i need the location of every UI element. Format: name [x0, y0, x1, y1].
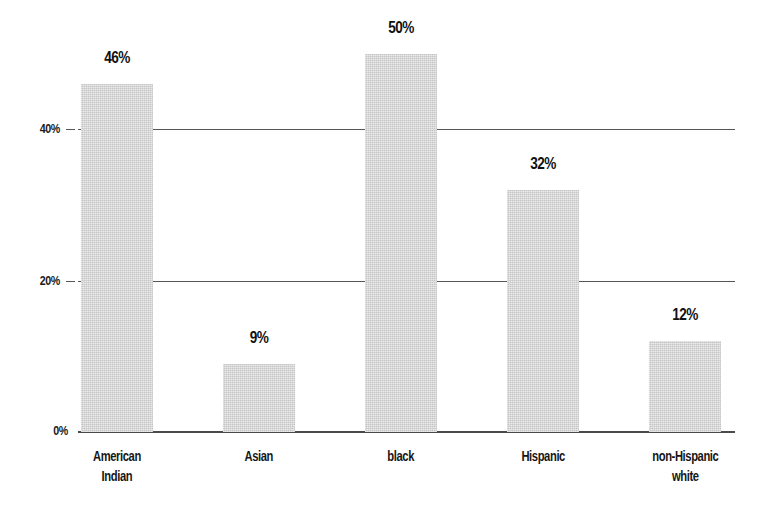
category-label-non-hispanic-white: non-Hispanic white	[615, 446, 755, 486]
bar-value-american-indian: 46%	[85, 48, 149, 68]
plot-area: 40% 20% 0% 46% American Indian 9% Asian …	[0, 0, 769, 516]
bar-chart: 40% 20% 0% 46% American Indian 9% Asian …	[0, 0, 769, 516]
bar-hispanic[interactable]	[507, 190, 579, 432]
tick-mark-20	[66, 281, 75, 282]
category-label-hispanic: Hispanic	[473, 446, 613, 466]
y-tick-label-20: 20%	[17, 273, 60, 288]
bar-american-indian[interactable]	[81, 84, 153, 432]
category-label-text-non-hispanic-white: non-Hispanic white	[652, 446, 718, 486]
category-label-text-black: black	[388, 446, 415, 466]
bar-asian[interactable]	[223, 364, 295, 432]
category-label-text-hispanic: Hispanic	[521, 446, 564, 466]
bar-value-hispanic: 32%	[511, 154, 575, 174]
bar-black[interactable]	[365, 54, 437, 432]
y-tick-label-0: 0%	[19, 423, 68, 438]
category-label-text-american-indian: American Indian	[93, 446, 141, 486]
category-label-american-indian: American Indian	[47, 446, 187, 486]
y-tick-label-40: 40%	[17, 121, 60, 136]
bar-non-hispanic-white[interactable]	[649, 341, 721, 432]
tick-mark-40	[66, 129, 75, 130]
bar-value-asian: 9%	[227, 328, 291, 348]
category-label-black: black	[331, 446, 471, 466]
category-label-text-asian: Asian	[245, 446, 274, 466]
bar-value-black: 50%	[369, 18, 433, 38]
category-label-asian: Asian	[189, 446, 329, 466]
bar-value-non-hispanic-white: 12%	[653, 305, 717, 325]
